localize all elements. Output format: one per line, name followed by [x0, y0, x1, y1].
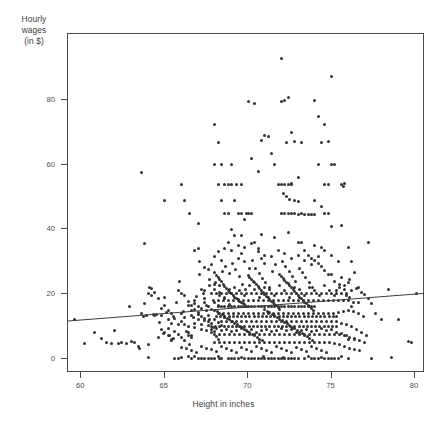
data-point: [303, 294, 306, 297]
data-point: [187, 331, 190, 334]
data-point: [350, 260, 353, 263]
data-point: [268, 333, 271, 336]
data-point: [315, 315, 318, 318]
data-point: [223, 296, 226, 299]
data-point: [193, 355, 196, 358]
data-point: [197, 222, 200, 225]
data-point: [213, 301, 216, 304]
data-point: [240, 252, 243, 255]
data-point: [333, 342, 336, 345]
data-point: [290, 257, 293, 260]
data-point: [315, 320, 318, 323]
data-point: [143, 242, 146, 245]
data-point: [283, 252, 286, 255]
data-point: [250, 350, 253, 353]
data-point: [323, 123, 326, 126]
data-point: [250, 328, 253, 331]
data-point: [290, 183, 293, 186]
data-point: [247, 299, 250, 302]
data-point: [305, 328, 308, 331]
data-point: [235, 183, 238, 186]
data-point: [330, 254, 333, 257]
data-point: [203, 289, 206, 292]
data-point: [105, 341, 108, 344]
data-point: [325, 292, 328, 295]
data-point: [205, 329, 208, 332]
data-point: [287, 96, 290, 99]
data-point: [283, 341, 286, 344]
data-point: [330, 273, 333, 276]
data-point: [180, 312, 183, 315]
data-point: [317, 262, 320, 265]
data-point: [330, 75, 333, 78]
data-point: [415, 292, 418, 295]
data-point: [245, 320, 248, 323]
data-point: [228, 341, 231, 344]
data-point: [200, 323, 203, 326]
data-point: [258, 296, 261, 299]
y-axis-tick-label: 80: [29, 95, 55, 104]
data-point: [223, 247, 226, 250]
data-point: [223, 183, 226, 186]
data-point: [303, 305, 306, 308]
data-point: [278, 273, 281, 276]
data-point: [320, 349, 323, 352]
data-point: [188, 343, 191, 346]
data-point: [220, 324, 223, 327]
data-point: [332, 299, 335, 302]
data-point: [328, 315, 331, 318]
data-point: [323, 212, 326, 215]
data-point: [338, 283, 341, 286]
data-point: [290, 328, 293, 331]
data-point: [335, 315, 338, 318]
y-axis-tick-label: 40: [29, 224, 55, 233]
data-point: [193, 249, 196, 252]
data-point: [340, 322, 343, 325]
data-point: [284, 265, 287, 268]
data-point: [230, 330, 233, 333]
data-point: [278, 315, 281, 318]
data-point: [358, 349, 361, 352]
data-point: [193, 308, 196, 311]
data-point: [313, 305, 316, 308]
data-point: [190, 334, 193, 337]
data-point: [180, 356, 183, 359]
x-axis-tick-label: 75: [316, 381, 346, 390]
data-point: [150, 287, 153, 290]
data-point: [282, 312, 285, 315]
data-point: [160, 328, 163, 331]
data-point: [243, 325, 246, 328]
data-point: [397, 318, 400, 321]
data-point: [227, 299, 230, 302]
data-point: [157, 336, 160, 339]
x-axis-tick-label: 70: [232, 381, 262, 390]
data-point: [234, 268, 237, 271]
data-point: [328, 341, 331, 344]
data-point: [317, 312, 320, 315]
data-point: [280, 347, 283, 350]
data-point: [235, 292, 238, 295]
data-point: [220, 345, 223, 348]
data-point: [187, 300, 190, 303]
data-point: [350, 325, 353, 328]
data-point: [342, 185, 345, 188]
x-axis-tick-label: 65: [149, 381, 179, 390]
data-point: [288, 296, 291, 299]
data-point: [270, 255, 273, 258]
data-point: [292, 312, 295, 315]
data-point: [257, 250, 260, 253]
data-point: [285, 329, 288, 332]
data-point: [287, 299, 290, 302]
y-axis-tick-label: 60: [29, 160, 55, 169]
data-point: [308, 281, 311, 284]
data-point: [233, 341, 236, 344]
data-point: [355, 328, 358, 331]
data-point: [298, 341, 301, 344]
data-point: [221, 270, 224, 273]
data-point: [163, 304, 166, 307]
data-point: [277, 312, 280, 315]
data-point: [250, 242, 253, 245]
data-point: [219, 315, 222, 318]
data-point: [252, 299, 255, 302]
data-point: [313, 99, 316, 102]
